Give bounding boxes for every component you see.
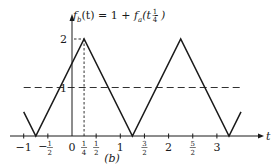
svg-text:1: 1 <box>82 140 86 148</box>
figure: −1−12014121322523 12 fb(t) = 1 + fa(t -1… <box>0 0 274 165</box>
x-tick-label: 14 <box>81 140 87 157</box>
triangle-wave-chart: −1−12014121322523 12 fb(t) = 1 + fa(t -1… <box>0 0 274 165</box>
x-tick-label: 2 <box>165 141 172 154</box>
y-tick-label: 2 <box>60 33 67 46</box>
data-series <box>24 39 241 136</box>
svg-text:fb(t) = 1 + fa(t -: fb(t) = 1 + fa(t - <box>72 9 158 24</box>
axes <box>10 14 264 139</box>
y-axis-ticks: 12 <box>60 33 67 95</box>
x-tick-label: −1 <box>16 141 32 154</box>
title-fraction: 14 <box>153 8 158 24</box>
x-axis-arrow-icon <box>258 134 264 139</box>
x-tick-label: 52 <box>190 140 196 157</box>
x-tick-label: 0 <box>69 141 76 154</box>
svg-text:2: 2 <box>94 149 98 157</box>
svg-text:1: 1 <box>94 140 98 148</box>
svg-text:5: 5 <box>191 140 195 148</box>
chart-title: fb(t) = 1 + fa(t -14) <box>72 8 165 24</box>
svg-text:2: 2 <box>191 149 195 157</box>
figure-caption: (b) <box>104 152 120 165</box>
x-tick-label: 3 <box>213 141 220 154</box>
svg-text:4: 4 <box>82 149 87 157</box>
x-tick-label: 12 <box>93 140 99 157</box>
svg-text:3: 3 <box>142 140 146 148</box>
svg-text:1: 1 <box>48 140 52 148</box>
svg-text:4: 4 <box>153 16 158 24</box>
svg-text:−: − <box>38 140 47 153</box>
x-tick-label: 32 <box>141 140 147 157</box>
svg-text:−1: −1 <box>16 141 32 154</box>
svg-text:2: 2 <box>48 149 52 157</box>
reference-lines <box>24 39 241 136</box>
svg-text:): ) <box>160 9 165 22</box>
x-tick-label: −12 <box>38 140 53 157</box>
svg-text:2: 2 <box>165 141 172 154</box>
svg-text:0: 0 <box>69 141 76 154</box>
svg-text:2: 2 <box>142 149 146 157</box>
svg-text:3: 3 <box>213 141 220 154</box>
x-axis-label: t <box>266 130 271 143</box>
series-line <box>24 39 241 136</box>
y-tick-label: 1 <box>60 82 67 95</box>
